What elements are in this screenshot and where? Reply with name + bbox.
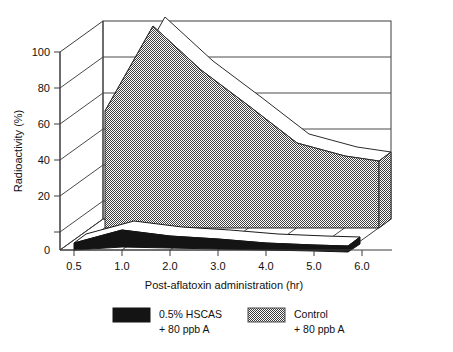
x-tick-label-0: 0.5 [66,260,81,272]
control-ribbon-endcap [379,152,391,228]
legend-label-control-line1: Control [294,308,328,320]
y-tick-label-100: 100 [32,46,50,58]
x-axis-title: Post-aflatoxin administration (hr) [145,279,303,291]
x-tick-label-2: 2.0 [162,260,177,272]
legend-swatch-hscas [113,308,150,322]
x-tick-label-5: 5.0 [306,260,321,272]
y-tick-label-80: 80 [38,82,50,94]
x-tick-label-3: 3.0 [210,260,225,272]
y-tick-label-40: 40 [38,154,50,166]
y-tick-label-20: 20 [38,190,50,202]
chart-figure: 100 80 60 40 20 0 Radioactivity (%) 0.5 … [0,0,453,352]
y-axis-title: Radioactivity (%) [12,110,24,193]
chart-svg: 100 80 60 40 20 0 Radioactivity (%) 0.5 … [0,0,453,352]
legend-label-control-line2: + 80 ppb A [294,323,345,335]
y-tick-label-60: 60 [38,118,50,130]
y-tick-label-0: 0 [44,244,50,256]
x-tick-label-4: 4.0 [258,260,273,272]
legend-swatch-control [248,308,285,322]
x-tick-label-6: 6.0 [354,260,369,272]
x-tick-label-1: 1.0 [114,260,129,272]
legend-label-hscas-line2: + 80 ppb A [159,323,210,335]
legend-label-hscas-line1: 0.5% HSCAS [159,308,222,320]
